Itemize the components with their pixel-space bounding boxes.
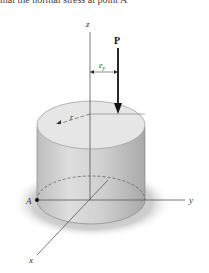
y-axis-label: y xyxy=(188,195,193,205)
eccentricity-subscript: y xyxy=(102,65,106,71)
load-label: P xyxy=(114,35,120,46)
z-axis-label: z xyxy=(85,19,90,29)
eccentricity-arrow-left xyxy=(90,70,94,74)
point-a-marker xyxy=(35,198,39,202)
cylinder-top-face xyxy=(37,101,145,149)
x-axis-label: x xyxy=(28,255,33,265)
point-a-label: A xyxy=(25,196,32,206)
cylinder-diagram: z y x r ey P A xyxy=(0,0,209,273)
eccentricity-label: ey xyxy=(99,61,106,71)
